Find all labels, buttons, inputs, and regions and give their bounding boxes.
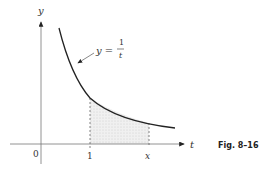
curve-label-den: t (119, 51, 123, 60)
curve-label-lhs: y = (95, 45, 113, 56)
t-axis-label: t (190, 139, 195, 150)
curve-label-num: 1 (119, 38, 124, 47)
y-axis-label: y (37, 5, 44, 16)
figure-caption: Fig. 8–16 (218, 141, 259, 150)
label-pointer (78, 53, 94, 63)
tick-label-one: 1 (87, 151, 93, 161)
figure-canvas: y t 0 1 x y = 1 t Fig. 8–16 (0, 0, 275, 175)
origin-label: 0 (33, 149, 39, 159)
tick-label-x: x (145, 151, 150, 161)
